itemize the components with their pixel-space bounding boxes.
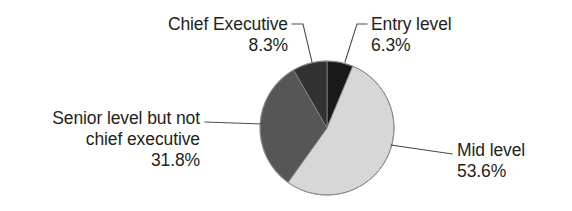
pie-label-entry-level-value: 6.3% — [371, 35, 452, 56]
pie-label-entry-level: Entry level 6.3% — [371, 14, 452, 56]
leader-line-mid-level — [391, 145, 452, 154]
pie-label-chief-executive-value: 8.3% — [168, 35, 288, 56]
leader-line-entry-level — [345, 24, 367, 62]
pie-slices — [260, 61, 394, 195]
pie-label-chief-executive: Chief Executive 8.3% — [168, 14, 288, 56]
pie-label-senior-level-value: 31.8% — [52, 150, 200, 171]
pie-label-chief-executive-name: Chief Executive — [168, 14, 288, 35]
pie-chart-figure: Chief Executive 8.3% Entry level 6.3% Se… — [0, 0, 572, 211]
pie-label-senior-level: Senior level but not chief executive 31.… — [52, 108, 200, 171]
pie-label-senior-level-name-line2: chief executive — [52, 129, 200, 150]
pie-label-mid-level: Mid level 53.6% — [457, 140, 525, 182]
leader-line-chief-executive — [292, 24, 312, 62]
pie-label-mid-level-name: Mid level — [457, 140, 525, 161]
pie-label-mid-level-value: 53.6% — [457, 161, 525, 182]
pie-label-entry-level-name: Entry level — [371, 14, 452, 35]
pie-label-senior-level-name-line1: Senior level but not — [52, 108, 200, 129]
leader-line-senior-level — [205, 122, 262, 124]
